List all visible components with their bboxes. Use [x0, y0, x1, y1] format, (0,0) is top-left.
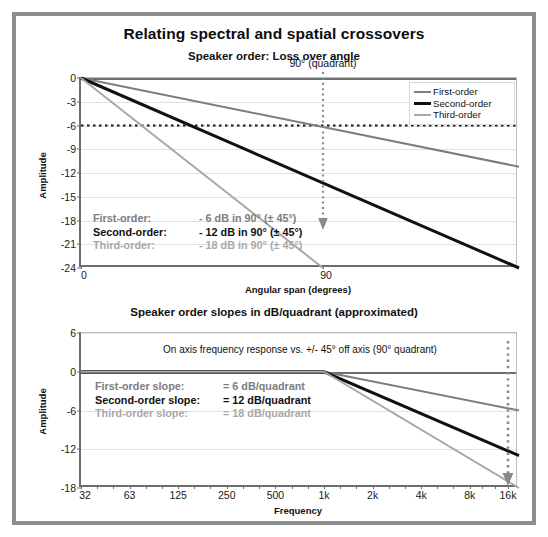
figure-title: Relating spectral and spatial crossovers [16, 25, 532, 43]
chart1-ytick-2: -6 [67, 120, 76, 132]
chart2-x-axis-label: Frequency [79, 505, 517, 516]
chart2-xtick-500: 500 [267, 489, 285, 501]
chart2-xtick-250: 250 [218, 489, 236, 501]
chart1-annotation-value-first: - 6 dB in 90° (± 45°) [199, 212, 296, 226]
chart1-y-axis-label: Amplitude [37, 146, 48, 206]
chart1-x-axis-label: Angular span (degrees) [79, 284, 517, 295]
legend-swatch-first-order [414, 91, 431, 93]
chart1-xtick-0: 0 [81, 269, 87, 281]
chart1-annotation-label-third: Third-order: [93, 239, 199, 253]
chart1-quadrant-arrowhead [318, 218, 328, 230]
chart1-ytick-7: -21 [61, 238, 76, 250]
chart1-plot-area: 0 -3 -6 -9 -12 -15 -18 -21 -24 [79, 77, 517, 267]
chart2-annotation-value-second: = 12 dB/quadrant [223, 394, 311, 408]
chart2-annotation-value-third: = 18 dB/quadrant [223, 407, 311, 421]
legend-label-first-order: First-order [433, 86, 478, 97]
legend-label-third-order: Third-order [433, 109, 481, 120]
chart1-annotation-row-second: Second-order:- 12 dB in 90° (± 45°) [93, 226, 302, 240]
chart2-ytick-m18: -18 [61, 482, 76, 494]
chart1-annotation-label-first: First-order: [93, 212, 199, 226]
chart2-annotations: First-order slope:= 6 dB/quadrant Second… [95, 380, 311, 421]
chart2-xtick-125: 125 [169, 489, 187, 501]
chart1-annotation-row-third: Third-order:- 18 dB in 90° (± 45°) [93, 239, 302, 253]
chart2-annotation-label-second: Second-order slope: [95, 394, 223, 408]
chart1-xtick-90: 90 [320, 269, 332, 281]
chart2-annotation-row-second: Second-order slope:= 12 dB/quadrant [95, 394, 311, 408]
chart1-ytick-0: 0 [70, 72, 76, 84]
chart1-annotation-row-first: First-order:- 6 dB in 90° (± 45°) [93, 212, 302, 226]
chart1-ytick-5: -15 [61, 191, 76, 203]
chart1-title: Speaker order: Loss over angle [16, 50, 532, 62]
legend-swatch-second-order [414, 102, 431, 105]
chart2-ytick-6: 6 [70, 327, 76, 339]
chart2-annotation-label-first: First-order slope: [95, 380, 223, 394]
chart2-xtick-16k: 16k [500, 489, 517, 501]
chart1-ytick-4: -12 [61, 167, 76, 179]
chart1-legend: First-order Second-order Third-order [409, 82, 515, 125]
chart2-annotation-label-third: Third-order slope: [95, 407, 223, 421]
chart1-ytick-6: -18 [61, 215, 76, 227]
chart2-xtick-8k: 8k [464, 489, 475, 501]
legend-item-third-order: Third-order [414, 109, 508, 121]
chart2-xtick-63: 63 [124, 489, 136, 501]
chart1-annotation-value-second: - 12 dB in 90° (± 45°) [199, 226, 302, 240]
chart2-ytick-m6: -6 [67, 405, 76, 417]
chart2-plot-area: 6 0 -6 -12 -18 32 63 125 250 500 1k [79, 332, 517, 487]
chart1-annotation-value-third: - 18 dB in 90° (± 45°) [199, 239, 302, 253]
chart2-y-axis-label: Amplitude [37, 382, 48, 442]
chart2-ytick-m12: -12 [61, 443, 76, 455]
figure-frame: Relating spectral and spatial crossovers… [12, 12, 536, 525]
chart1-annotations: First-order:- 6 dB in 90° (± 45°) Second… [93, 212, 302, 253]
chart2-title: Speaker order slopes in dB/quadrant (app… [16, 306, 532, 318]
chart2-annotation-row-third: Third-order slope:= 18 dB/quadrant [95, 407, 311, 421]
legend-swatch-third-order [414, 114, 431, 116]
chart2-xtick-32: 32 [79, 489, 91, 501]
chart1-ytick-3: -9 [67, 143, 76, 155]
chart1-ytick-8: -24 [61, 262, 76, 274]
chart2-xtick-4k: 4k [416, 489, 427, 501]
legend-item-first-order: First-order [414, 86, 508, 98]
chart1-annotation-label-second: Second-order: [93, 226, 199, 240]
chart-loss-over-angle: Speaker order: Loss over angle Amplitude… [16, 50, 532, 296]
chart-slopes-db-per-quadrant: Speaker order slopes in dB/quadrant (app… [16, 306, 532, 521]
chart2-xtick-1k: 1k [318, 489, 329, 501]
chart2-ytick-0: 0 [70, 366, 76, 378]
chart2-annotation-value-first: = 6 dB/quadrant [223, 380, 305, 394]
chart1-quadrant-label: 90° (quadrant) [289, 57, 356, 69]
legend-item-second-order: Second-order [414, 98, 508, 110]
legend-label-second-order: Second-order [433, 98, 492, 109]
chart2-xtick-2k: 2k [367, 489, 378, 501]
chart1-ytick-1: -3 [67, 96, 76, 108]
chart2-annotation-row-first: First-order slope:= 6 dB/quadrant [95, 380, 311, 394]
